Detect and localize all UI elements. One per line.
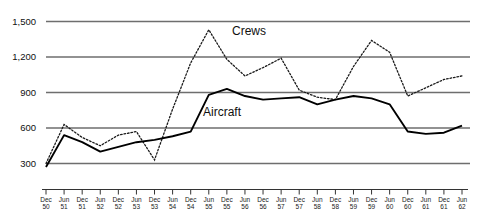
x-tick-label: Jun 62: [451, 196, 473, 211]
series-line-crews: [46, 30, 462, 164]
y-tick-label: 900: [2, 87, 36, 98]
series-layer: [46, 30, 462, 167]
y-tick-label: 300: [2, 158, 36, 169]
chart-container: 3006009001,2001,500 Dec 50Jun 51Dec 51Ju…: [0, 0, 479, 223]
y-tick-label: 600: [2, 122, 36, 133]
gridlines: [46, 22, 470, 164]
series-label-crews: Crews: [232, 24, 266, 38]
y-tick-label: 1,500: [2, 16, 36, 27]
series-label-aircraft: Aircraft: [203, 105, 241, 119]
x-axis-ticks: [46, 190, 462, 195]
y-tick-label: 1,200: [2, 51, 36, 62]
